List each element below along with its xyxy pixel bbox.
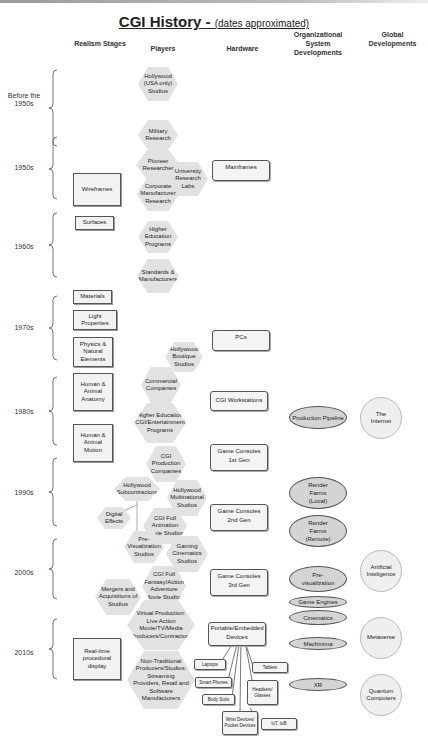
hardware-console1-line2: 1st Gen	[211, 456, 267, 465]
org-previsualization: Pre-visualization	[289, 566, 347, 592]
device-body-suits: Body Suits	[202, 694, 235, 705]
device-smart-phones: Smart Phones	[195, 677, 232, 688]
hardware-game-consoles-1st: Game Consoles 1st Gen	[210, 444, 268, 471]
realism-light-properties: Light Properties	[73, 310, 117, 330]
org-production-pipeline: Production Pipeline	[289, 406, 347, 429]
global-quantum: Quantum Computers	[360, 674, 402, 716]
realism-wireframes: Wireframes	[73, 173, 121, 206]
hardware-console3-line2: 3rd Gen	[211, 581, 267, 590]
org-cinematics: Cinematics	[289, 610, 347, 625]
device-iot: IoT, IoB	[261, 718, 297, 730]
hardware-console2-line1: Game Consoles	[211, 507, 267, 516]
global-metaverse: Metaverse	[360, 617, 402, 659]
era-1950s: 1950s	[4, 164, 44, 172]
hardware-pcs: PCs	[212, 330, 270, 351]
hardware-portable-devices: Portable/Embedded Devices	[208, 622, 266, 646]
global-internet: The Internet	[360, 397, 402, 439]
org-xr: XR	[289, 678, 347, 691]
realism-physics: Physics & Natural Elements	[73, 337, 113, 367]
device-headsets: Headsets/ Glasses	[247, 680, 278, 705]
device-laptops: Laptops	[194, 659, 226, 670]
org-machinima: Machinima	[289, 637, 347, 650]
org-render-farms-local: Render Farms (Local)	[289, 477, 347, 509]
era-2010s: 2010s	[4, 649, 44, 657]
org-render-farms-remote: Render Farms (Remote)	[289, 515, 347, 547]
era-1970s: 1970s	[4, 324, 44, 332]
device-wrist-pocket: Wrist Devices/ Pocket Devices	[222, 711, 258, 735]
era-1980s: 1980s	[4, 408, 44, 416]
era-2000s: 2000s	[4, 569, 44, 577]
hardware-cgi-workstations-label: CGI Workstations	[211, 396, 267, 405]
era-1990s: 1990s	[4, 489, 44, 497]
realism-materials: Materials	[73, 290, 112, 304]
hardware-pcs-label: PCs	[213, 333, 269, 342]
hardware-console3-line1: Game Consoles	[211, 572, 267, 581]
era-1960s: 1960s	[4, 243, 44, 251]
realism-anatomy: Human & Animal Anatomy	[73, 373, 113, 411]
global-ai: Artificial Inteligence	[360, 550, 402, 592]
era-before-1950s: Before the 1950s	[4, 92, 44, 108]
hardware-portable-line2: Devices	[209, 633, 265, 642]
hardware-mainframes-label: Mainframes	[213, 163, 269, 172]
hardware-game-consoles-2nd: Game Consoles 2nd Gen	[210, 504, 268, 531]
hardware-portable-line1: Portable/Embedded	[209, 624, 265, 633]
hardware-mainframes: Mainframes	[212, 160, 270, 181]
org-game-engines: Game Engines	[289, 596, 347, 608]
hardware-cgi-workstations: CGI Workstations	[210, 391, 268, 411]
realism-realtime: Real-time procedural display	[73, 638, 121, 680]
hardware-console1-line1: Game Consoles	[211, 447, 267, 456]
hardware-game-consoles-3rd: Game Consoles 3rd Gen	[210, 569, 268, 596]
realism-surfaces: Surfaces	[75, 216, 114, 230]
realism-motion: Human & Animal Motion	[73, 424, 113, 462]
device-tablets: Tablets	[252, 662, 288, 673]
hardware-console2-line2: 2nd Gen	[211, 516, 267, 525]
